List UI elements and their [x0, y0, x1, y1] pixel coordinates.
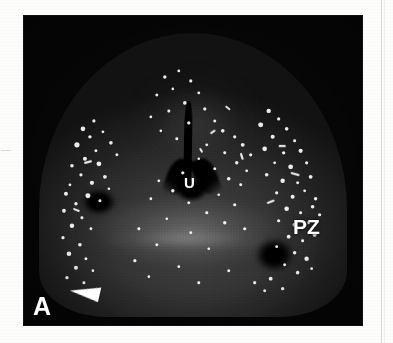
page-column-rule [381, 0, 382, 343]
left-stromal-defect [82, 189, 116, 215]
annotation-label-peripheral-zone: PZ [293, 216, 320, 237]
figure-photomicrograph: U PZ A [24, 16, 362, 325]
scan-artifact-mark [2, 150, 11, 151]
transition-zone-highlight [107, 226, 267, 252]
page-column-rule-shadow [384, 0, 385, 343]
scanned-journal-page: U PZ A [0, 0, 393, 343]
right-stromal-defect [255, 238, 295, 272]
central-zone-region [131, 67, 260, 175]
figure-panel-label: A [33, 294, 51, 319]
annotation-label-urethra: U [184, 175, 195, 190]
